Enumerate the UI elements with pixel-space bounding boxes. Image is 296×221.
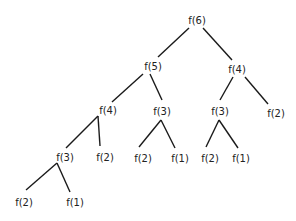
tree-edge [245,77,268,104]
tree-edge [220,77,233,100]
tree-node-label: f(2) [96,152,114,163]
tree-node-label: f(3) [211,106,229,117]
tree-edge [66,116,98,148]
tree-edge [161,120,175,148]
tree-node-label: f(2) [267,108,285,119]
tree-node-label: f(6) [188,15,206,26]
tree-nodes: f(6)f(5)f(4)f(4)f(3)f(3)f(2)f(3)f(2)f(2)… [15,15,285,208]
tree-edge [158,28,189,57]
tree-edge [139,120,161,147]
tree-node-label: f(3) [56,152,74,163]
tree-node-label: f(1) [66,197,84,208]
tree-edge [150,74,162,100]
tree-edge [219,120,238,148]
tree-edge [57,163,70,192]
tree-node-label: f(1) [232,153,250,164]
tree-edge [206,120,219,147]
tree-edge [112,74,143,102]
tree-node-label: f(4) [99,105,117,116]
tree-edges [26,28,268,192]
tree-node-label: f(5) [144,61,162,72]
tree-node-label: f(2) [134,153,152,164]
tree-node-label: f(2) [15,197,33,208]
tree-node-label: f(4) [228,64,246,75]
tree-edge [26,163,57,190]
tree-node-label: f(2) [201,153,219,164]
tree-node-label: f(3) [153,106,171,117]
recursion-tree-diagram: f(6)f(5)f(4)f(4)f(3)f(3)f(2)f(3)f(2)f(2)… [0,0,296,221]
tree-edge [203,28,232,60]
tree-edge [98,116,100,146]
tree-node-label: f(1) [171,153,189,164]
